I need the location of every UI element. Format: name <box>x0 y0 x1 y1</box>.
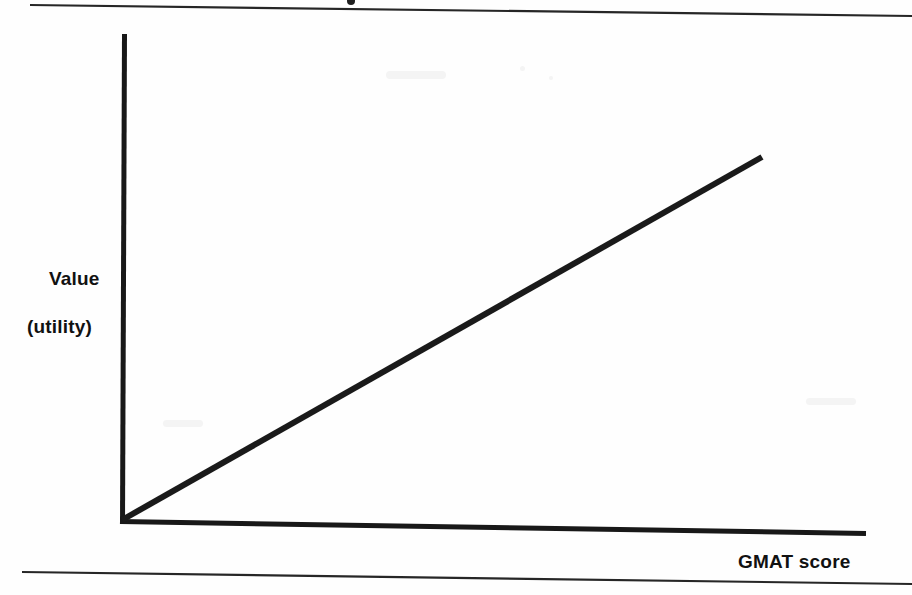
figure-drawing <box>0 0 912 595</box>
y-axis-label-line2: (utility) <box>27 315 100 339</box>
y-axis-label-line1: Value <box>49 268 100 289</box>
y-axis-label: Value (utility) <box>27 243 100 387</box>
y-axis-line <box>123 34 125 524</box>
figure-container: Value (utility) GMAT score <box>0 0 912 595</box>
page-background <box>0 0 912 595</box>
x-axis-label: GMAT score <box>738 550 851 574</box>
